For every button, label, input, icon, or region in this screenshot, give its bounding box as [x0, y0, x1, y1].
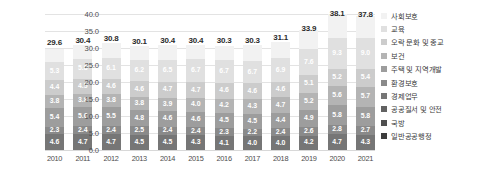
- bar-segment[interactable]: [102, 43, 121, 58]
- bar-segment[interactable]: 2.6: [299, 127, 318, 136]
- bar-segment[interactable]: 4.0: [186, 98, 205, 112]
- bar-segment[interactable]: 3.9: [158, 98, 177, 111]
- bar-column[interactable]: 33.97.65.15.24.92.64.2: [299, 14, 318, 150]
- legend-item-label: 일반공공행정: [391, 131, 432, 141]
- bar-segment[interactable]: 4.5: [243, 114, 262, 129]
- bar-segment[interactable]: 4.2: [299, 136, 318, 150]
- bar-segment[interactable]: 4.5: [158, 135, 177, 150]
- legend-item[interactable]: 국방: [381, 116, 478, 129]
- bar-segment[interactable]: 4.3: [186, 135, 205, 150]
- bar-segment[interactable]: 9.0: [356, 38, 375, 69]
- bar-segment[interactable]: 2.4: [271, 128, 290, 136]
- bar-column[interactable]: 38.19.35.25.65.82.84.7: [328, 14, 347, 150]
- bar-segment[interactable]: 4.6: [102, 79, 121, 95]
- legend-item[interactable]: 교육: [381, 22, 478, 35]
- x-axis-tick-label: 2018: [271, 154, 290, 163]
- bar-column[interactable]: 31.16.94.64.74.42.44.0: [271, 14, 290, 150]
- bar-segment[interactable]: [186, 45, 205, 59]
- bar-segment[interactable]: 6.5: [158, 60, 177, 82]
- bar-total-label: 30.8: [104, 34, 119, 43]
- bar-segment[interactable]: 4.7: [158, 82, 177, 98]
- bar-segment[interactable]: 6.7: [186, 59, 205, 82]
- bar-column[interactable]: 37.89.05.45.75.82.74.3: [356, 14, 375, 150]
- bar-segment[interactable]: 2.2: [243, 129, 262, 136]
- legend-item[interactable]: 사회보호: [381, 9, 478, 22]
- legend-item[interactable]: 주택 및 지역개발: [381, 63, 478, 76]
- bar-column[interactable]: 30.36.74.64.24.52.34.1: [215, 14, 234, 150]
- bar-segment[interactable]: 6.7: [215, 60, 234, 83]
- bar-segment[interactable]: 3.8: [102, 94, 121, 107]
- bar-segment[interactable]: 4.6: [215, 83, 234, 99]
- bar-segment[interactable]: 5.1: [299, 75, 318, 92]
- bar-segment[interactable]: 5.8: [356, 107, 375, 127]
- bar-column[interactable]: 30.46.74.74.04.62.44.3: [186, 14, 205, 150]
- bar-column[interactable]: 30.86.14.63.85.52.44.7: [102, 14, 121, 150]
- legend-swatch-icon: [381, 26, 387, 32]
- bar-segment[interactable]: 4.7: [271, 97, 290, 113]
- bar-segment[interactable]: [243, 45, 262, 60]
- bar-segment[interactable]: 6.7: [243, 61, 262, 84]
- bar-segment[interactable]: 4.7: [102, 134, 121, 150]
- bar-segment[interactable]: 2.5: [130, 126, 149, 135]
- bar-segment[interactable]: 5.7: [356, 87, 375, 106]
- bar-segment[interactable]: 4.6: [243, 83, 262, 99]
- bar-segment[interactable]: 4.3: [356, 135, 375, 150]
- bar-segment[interactable]: 4.6: [158, 111, 177, 127]
- bar-segment[interactable]: 2.7: [356, 126, 375, 135]
- x-axis-tick-label: 2017: [243, 154, 262, 163]
- bar-segment[interactable]: 4.0: [243, 136, 262, 150]
- bar-segment[interactable]: 4.3: [243, 99, 262, 114]
- legend-item[interactable]: 경제업무: [381, 89, 478, 102]
- bar-segment[interactable]: [158, 45, 177, 60]
- bar-segment[interactable]: 4.6: [271, 82, 290, 98]
- bar-segment[interactable]: 4.7: [328, 134, 347, 150]
- bar-segment[interactable]: 4.1: [215, 136, 234, 150]
- bar-segment[interactable]: 4.7: [186, 82, 205, 98]
- bar-segment[interactable]: 6.9: [271, 58, 290, 81]
- legend-item[interactable]: 오락 문화 및 종교: [381, 36, 478, 49]
- bar-segment[interactable]: 5.5: [102, 107, 121, 126]
- bar-segment[interactable]: 4.6: [186, 112, 205, 128]
- legend-item[interactable]: 보건: [381, 49, 478, 62]
- bar-segment[interactable]: [215, 46, 234, 61]
- bar-segment[interactable]: 2.4: [158, 127, 177, 135]
- bar-total-label: 33.9: [302, 24, 317, 33]
- bar-segment[interactable]: 2.3: [215, 128, 234, 136]
- bar-column[interactable]: 30.46.54.73.94.62.44.5: [158, 14, 177, 150]
- bar-column[interactable]: 30.16.24.63.84.82.54.5: [130, 14, 149, 150]
- bar-segment[interactable]: 4.4: [271, 113, 290, 128]
- legend-swatch-icon: [381, 66, 387, 72]
- bar-segment[interactable]: 2.4: [186, 127, 205, 135]
- legend-swatch-icon: [381, 133, 387, 139]
- bar-segment[interactable]: 4.6: [130, 81, 149, 97]
- bar-segment[interactable]: 5.8: [328, 105, 347, 125]
- legend-item[interactable]: 공공질서 및 안전: [381, 103, 478, 116]
- bar-segment[interactable]: 9.3: [328, 38, 347, 69]
- legend-swatch-icon: [381, 106, 387, 112]
- bar-segment[interactable]: 7.6: [299, 49, 318, 75]
- bar-segment[interactable]: 4.2: [215, 99, 234, 113]
- bar-segment[interactable]: 2.8: [328, 125, 347, 134]
- bar-segment[interactable]: [271, 42, 290, 58]
- bar-segment[interactable]: 4.9: [299, 110, 318, 127]
- bar-segment[interactable]: 6.2: [130, 60, 149, 81]
- bar-segment[interactable]: 5.2: [299, 93, 318, 111]
- bar-column[interactable]: 30.36.74.64.34.52.24.0: [243, 14, 262, 150]
- bar-segment[interactable]: 5.6: [328, 86, 347, 105]
- bar-segment[interactable]: 4.0: [271, 136, 290, 150]
- legend-item[interactable]: 환경보호: [381, 76, 478, 89]
- bar-segment[interactable]: [130, 46, 149, 61]
- bar-segment[interactable]: 5.2: [328, 69, 347, 87]
- bar-segment[interactable]: 5.4: [356, 69, 375, 87]
- y-axis-tick-label: 35.0: [59, 27, 99, 36]
- bar-segment[interactable]: 4.8: [130, 110, 149, 126]
- bar-segment[interactable]: 6.1: [102, 58, 121, 79]
- x-axis-tick-label: 2021: [356, 154, 375, 163]
- bar-segment[interactable]: 4.5: [130, 135, 149, 150]
- bar-segment[interactable]: 4.5: [215, 113, 234, 128]
- bar-segment[interactable]: [299, 30, 318, 49]
- bar-segment[interactable]: 3.8: [130, 97, 149, 110]
- legend-item[interactable]: 일반공공행정: [381, 130, 478, 143]
- bar-segment[interactable]: 2.4: [102, 126, 121, 134]
- bar-total-label: 31.1: [273, 33, 288, 42]
